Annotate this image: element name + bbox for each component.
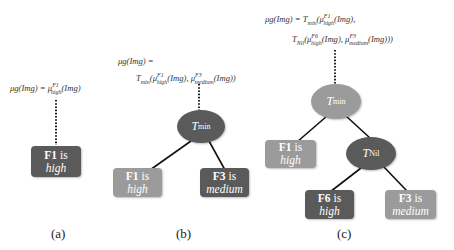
equation-b-line1: μg(Img) = [118,56,154,66]
equation-a-sub: high [51,89,62,95]
edge-c-root-left [297,116,327,142]
edge-c-inner-left [330,168,361,192]
equation-a-lhs: μg(Img) = [10,83,48,93]
equation-b-line2: Tmin(μF1high(Img), μF3medium(Img)) [136,72,236,85]
caption-c: (c) [337,226,351,242]
operator-node-b-tmin: Tmin [177,110,225,143]
operator-node-c-tmin: Tmin [311,84,361,119]
edge-b-right [209,141,225,170]
operator-node-c-tnil: TNil [346,137,396,170]
leaf-c-f6-high: F6 is high [305,190,354,219]
leaf-a-f1-high: F1 is high [31,146,81,177]
equation-a-sup: F1 [52,82,59,88]
equation-a-arg: (Img) [61,83,80,93]
leaf-c-f3-medium: F3 is medium [385,190,436,219]
leaf-b-f3-medium: F3 is medium [200,168,249,197]
caption-b: (b) [176,226,191,242]
caption-a: (a) [51,226,65,242]
edge-c-root-right [346,116,370,138]
equation-c-line2: TNil(μF6high(Img), μF3medium(Img))) [292,33,393,46]
leaf-c-f1-high: F1 is high [265,140,316,168]
edge-c-inner-right [383,166,407,191]
leaf-value: high [31,162,81,175]
equation-a: μg(Img) = μF1high(Img) [10,82,81,95]
diagram-canvas: μg(Img) = μF1high(Img) F1 is high (a) μg… [0,0,454,250]
edge-b-left [150,141,191,170]
leaf-b-f1-high: F1 is high [113,168,162,197]
leaf-is: is [60,149,68,161]
leaf-feature: F1 [44,149,57,161]
equation-c-line1: μg(Img) = Tmin(μF1high(Img), [265,13,355,26]
